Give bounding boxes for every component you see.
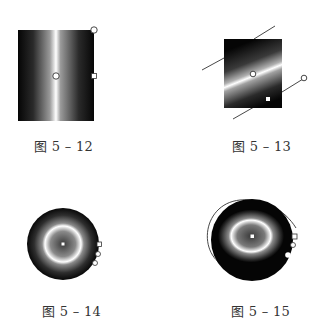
- end-handle-icon[interactable]: [301, 75, 307, 81]
- guide-line-upper-right: [254, 26, 275, 39]
- corner-handle-icon[interactable]: [91, 27, 97, 33]
- guide-line-lower-right: [282, 79, 303, 92]
- center-handle-icon[interactable]: [250, 71, 256, 77]
- figure-5-13: [202, 26, 307, 119]
- caption-fig-5-15: 图 5 – 15: [231, 301, 290, 320]
- gradient-circle: [211, 199, 293, 281]
- figure-5-14: [27, 208, 102, 280]
- center-handle-icon[interactable]: [53, 73, 59, 79]
- square-handle-icon[interactable]: [266, 97, 270, 101]
- guide-line-upper-left: [202, 58, 224, 70]
- circle-handle-icon[interactable]: [96, 252, 101, 257]
- circle-handle-icon[interactable]: [285, 252, 291, 258]
- figure-5-12: [18, 27, 97, 121]
- center-handle-icon[interactable]: [62, 243, 65, 246]
- caption-fig-5-13: 图 5 – 13: [232, 136, 291, 155]
- square-handle-icon[interactable]: [97, 242, 102, 247]
- caption-fig-5-14: 图 5 – 14: [42, 301, 101, 320]
- square-handle-icon[interactable]: [92, 74, 97, 79]
- guide-line-lower-left: [233, 107, 254, 119]
- figures-canvas: [0, 0, 323, 331]
- figure-5-15: [207, 199, 297, 281]
- circle-handle-icon[interactable]: [93, 261, 98, 266]
- caption-fig-5-12: 图 5 – 12: [34, 136, 93, 155]
- square-handle-icon[interactable]: [292, 234, 297, 239]
- center-handle-icon[interactable]: [251, 235, 255, 239]
- circle-handle-icon[interactable]: [291, 243, 296, 248]
